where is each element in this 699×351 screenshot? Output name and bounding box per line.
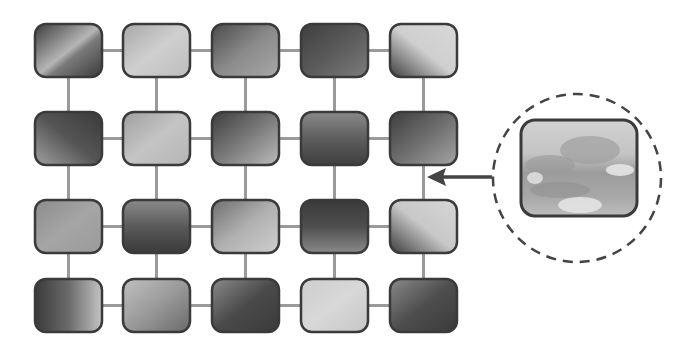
magnification-callout [427,94,661,262]
grid-tile [212,279,279,332]
grid-tile [301,24,368,77]
image-blur-patch [527,172,543,184]
grid-tile [35,279,102,332]
grid-tile [35,24,102,77]
image-blur-patch [558,197,602,213]
grid-tile [390,112,457,165]
grid-tile [123,24,190,77]
grid-tile [301,112,368,165]
grid-tile [390,24,457,77]
grid-tile [35,200,102,253]
grid-tile [212,200,279,253]
grid-tile [390,279,457,332]
tile-grid-diagram [0,0,699,351]
grid-tile [123,112,190,165]
grid-connectors [69,51,424,306]
magnified-image [521,120,637,216]
grid-tile [123,200,190,253]
grid-tile [390,200,457,253]
grid-tile [212,112,279,165]
grid-tile [123,279,190,332]
grid-tile [301,200,368,253]
grid-tile [301,279,368,332]
grid-tile [35,112,102,165]
image-blur-patch [525,155,575,175]
image-blur-patch [530,182,590,198]
image-blur-patch [606,164,634,176]
grid-tile [212,24,279,77]
